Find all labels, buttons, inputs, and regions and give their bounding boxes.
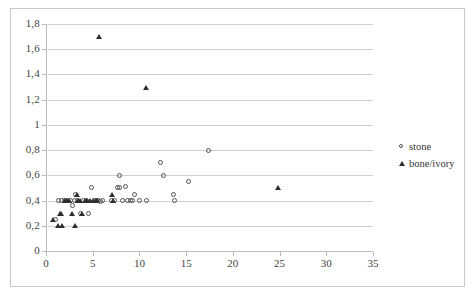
- data-point-stone: [70, 203, 75, 208]
- data-point-bone-ivory: [69, 211, 75, 216]
- data-point-stone: [89, 185, 94, 190]
- data-point-bone-ivory: [110, 198, 116, 203]
- x-tick-mark: [186, 252, 187, 256]
- x-tick-label: 25: [265, 258, 295, 269]
- legend-item-stone: stone: [399, 138, 474, 155]
- x-tick-label: 35: [358, 258, 388, 269]
- gridline-y: [46, 251, 373, 252]
- x-tick-label: 30: [311, 258, 341, 269]
- data-point-stone: [130, 198, 135, 203]
- x-tick-mark: [46, 252, 47, 256]
- legend-item-bone-ivory: bone/ivory: [399, 155, 474, 172]
- data-point-stone: [86, 211, 91, 216]
- x-tick-mark: [93, 252, 94, 256]
- data-point-bone-ivory: [66, 198, 72, 203]
- data-point-bone-ivory: [50, 217, 56, 222]
- data-point-bone-ivory: [72, 223, 78, 228]
- x-tick-mark: [139, 252, 140, 256]
- data-point-bone-ivory: [94, 198, 100, 203]
- data-point-stone: [123, 184, 128, 189]
- chart-legend: stone bone/ivory: [399, 138, 474, 172]
- x-tick-label: 0: [31, 258, 61, 269]
- data-point-stone: [171, 192, 176, 197]
- y-tick-label: 1: [4, 119, 40, 130]
- data-point-stone: [186, 179, 191, 184]
- data-point-bone-ivory: [109, 192, 115, 197]
- x-tick-label: 10: [124, 258, 154, 269]
- data-point-stone: [158, 160, 163, 165]
- y-tick-label: 0,2: [4, 220, 40, 231]
- plot-area: [46, 24, 373, 251]
- x-tick-label: 5: [78, 258, 108, 269]
- legend-label-bone-ivory: bone/ivory: [409, 155, 455, 172]
- y-tick-label: 1,6: [4, 43, 40, 54]
- data-point-stone: [117, 173, 122, 178]
- x-tick-mark: [373, 252, 374, 256]
- y-axis-labels: 00,20,40,60,811,21,41,61,8: [0, 0, 40, 295]
- data-point-stone: [117, 185, 122, 190]
- x-tick-label: 15: [171, 258, 201, 269]
- y-tick-label: 1,4: [4, 68, 40, 79]
- y-tick-label: 1,8: [4, 18, 40, 29]
- data-point-stone: [144, 198, 149, 203]
- data-point-bone-ivory: [58, 211, 64, 216]
- data-point-stone: [206, 148, 211, 153]
- data-point-bone-ivory: [59, 223, 65, 228]
- legend-marker-circle-icon: [399, 144, 403, 148]
- data-point-bone-ivory: [275, 185, 281, 190]
- x-tick-mark: [326, 252, 327, 256]
- y-tick-label: 0,6: [4, 169, 40, 180]
- y-tick-label: 1,2: [4, 94, 40, 105]
- x-tick-label: 20: [218, 258, 248, 269]
- y-tick-mark: [42, 251, 46, 252]
- data-point-stone: [132, 192, 137, 197]
- x-tick-mark: [233, 252, 234, 256]
- y-tick-label: 0,8: [4, 144, 40, 155]
- data-point-stone: [172, 198, 177, 203]
- data-point-stone: [161, 173, 166, 178]
- legend-label-stone: stone: [409, 138, 431, 155]
- data-point-bone-ivory: [96, 34, 102, 39]
- legend-marker-triangle-icon: [399, 161, 405, 166]
- data-point-stone: [137, 198, 142, 203]
- y-tick-label: 0: [4, 245, 40, 256]
- x-tick-mark: [280, 252, 281, 256]
- data-point-bone-ivory: [79, 211, 85, 216]
- data-point-bone-ivory: [143, 85, 149, 90]
- data-point-bone-ivory: [74, 192, 80, 197]
- y-tick-label: 0,4: [4, 195, 40, 206]
